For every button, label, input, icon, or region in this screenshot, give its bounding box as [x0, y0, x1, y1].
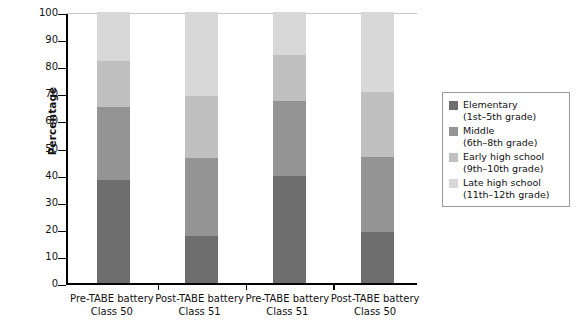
y-axis-tick-label: 10: [24, 251, 58, 262]
bar-segment: [185, 12, 218, 96]
legend-swatch-early-high: [449, 153, 458, 162]
legend-swatch-late-high: [449, 179, 458, 188]
y-axis-tick-label: 100: [24, 7, 58, 18]
x-axis-tick: [158, 285, 160, 290]
legend-item-2[interactable]: Middle(6th–8th grade): [449, 125, 563, 148]
x-axis-label-4: Post-TABE batteryClass 50: [315, 292, 435, 318]
y-axis-tick: [58, 68, 66, 69]
legend-label-name: Late high school: [463, 177, 549, 189]
chart-legend: Elementary(1st–5th grade)Middle(6th–8th …: [442, 92, 570, 207]
legend-label-name: Middle: [463, 125, 537, 137]
bar-segment: [361, 232, 394, 283]
bar-segment: [273, 101, 306, 176]
legend-swatch-elementary: [449, 101, 458, 110]
y-axis-tick-label: 90: [24, 34, 58, 45]
legend-label: Late high school(11th–12th grade): [463, 177, 549, 200]
legend-label-range: (1st–5th grade): [463, 111, 536, 123]
bar-segment: [273, 176, 306, 283]
bar-segment: [273, 12, 306, 55]
stacked-bar-chart: Percentage 0102030405060708090100 Pre-TA…: [0, 0, 577, 325]
y-axis-tick: [58, 95, 66, 96]
bar-1: [97, 12, 130, 283]
y-axis-tick-label: 30: [24, 197, 58, 208]
bar-segment: [361, 157, 394, 232]
bar-2: [185, 12, 218, 283]
x-axis-label-line: Class 50: [315, 305, 435, 318]
legend-label-name: Early high school: [463, 151, 544, 163]
y-axis-tick: [58, 122, 66, 123]
bar-segment: [97, 61, 130, 107]
y-axis-tick-label: 20: [24, 224, 58, 235]
x-axis-label-line: Post-TABE battery: [315, 292, 435, 305]
legend-swatch-middle: [449, 127, 458, 136]
x-axis-tick: [246, 285, 248, 290]
plot-area: [66, 14, 417, 285]
bar-segment: [97, 180, 130, 283]
bar-segment: [361, 12, 394, 92]
y-axis-tick: [58, 204, 66, 205]
bar-4: [361, 12, 394, 283]
legend-item-1[interactable]: Elementary(1st–5th grade): [449, 99, 563, 122]
bar-segment: [97, 107, 130, 180]
y-axis-tick: [58, 14, 66, 15]
y-axis-tick-label: 70: [24, 88, 58, 99]
legend-label-range: (11th–12th grade): [463, 189, 549, 201]
x-axis-tick: [333, 285, 335, 290]
y-axis-tick-label: 50: [24, 143, 58, 154]
bar-segment: [185, 158, 218, 235]
legend-label: Early high school(9th–10th grade): [463, 151, 544, 174]
bar-segment: [97, 12, 130, 61]
legend-label-range: (9th–10th grade): [463, 163, 544, 175]
y-axis-tick: [58, 177, 66, 178]
bar-3: [273, 12, 306, 283]
bar-segment: [185, 236, 218, 283]
y-axis-tick-label: 60: [24, 115, 58, 126]
y-axis-tick: [58, 150, 66, 151]
y-axis-tick: [58, 285, 66, 286]
y-axis-tick-label: 40: [24, 170, 58, 181]
y-axis-tick: [58, 258, 66, 259]
legend-label: Middle(6th–8th grade): [463, 125, 537, 148]
bar-segment: [273, 55, 306, 101]
legend-item-3[interactable]: Early high school(9th–10th grade): [449, 151, 563, 174]
y-axis-tick-label: 80: [24, 61, 58, 72]
legend-label: Elementary(1st–5th grade): [463, 99, 536, 122]
y-axis-tick: [58, 41, 66, 42]
legend-label-range: (6th–8th grade): [463, 137, 537, 149]
bar-segment: [361, 92, 394, 157]
legend-item-4[interactable]: Late high school(11th–12th grade): [449, 177, 563, 200]
y-axis-tick: [58, 231, 66, 232]
y-axis-tick-label: 0: [24, 278, 58, 289]
y-axis-tick-labels: 0102030405060708090100: [14, 0, 58, 325]
legend-label-name: Elementary: [463, 99, 536, 111]
bar-segment: [185, 96, 218, 158]
